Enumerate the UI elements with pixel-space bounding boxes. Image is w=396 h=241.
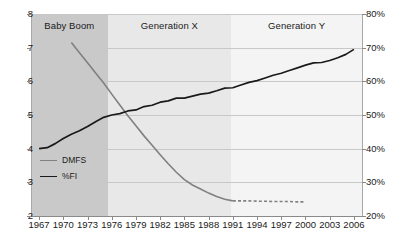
- x-axis: [31, 216, 363, 217]
- y-axis-right-tick-mark: [362, 216, 366, 217]
- y-axis-right-tick-mark: [362, 48, 366, 49]
- x-axis-tick-mark: [112, 216, 113, 220]
- y-axis-right-tick-mark: [362, 115, 366, 116]
- y-axis-right-tick-label: 40%: [366, 143, 396, 154]
- legend-swatch-pfi: [40, 176, 57, 177]
- chart-container: Baby BoomGeneration XGeneration Y 234567…: [0, 0, 396, 241]
- y-axis-left-tick-mark: [27, 115, 31, 116]
- legend-item-pfi: %FI: [40, 168, 86, 184]
- y-axis-left-tick-mark: [27, 48, 31, 49]
- x-axis-tick-mark: [233, 216, 234, 220]
- x-axis-tick-mark: [136, 216, 137, 220]
- series-line-pfi: [39, 49, 354, 148]
- x-axis-tick-mark: [354, 216, 355, 220]
- legend-swatch-dmfs: [40, 160, 57, 161]
- x-axis-tick-label: 2006: [337, 219, 371, 230]
- x-axis-tick-mark: [257, 216, 258, 220]
- x-axis-tick-mark: [209, 216, 210, 220]
- x-axis-tick-mark: [281, 216, 282, 220]
- y-axis-left-tick-mark: [27, 14, 31, 15]
- y-axis-right-tick-mark: [362, 149, 366, 150]
- x-axis-tick-mark: [39, 216, 40, 220]
- x-axis-tick-mark: [184, 216, 185, 220]
- y-axis-right-tick-label: 60%: [366, 75, 396, 86]
- legend-label-dmfs: DMFS: [62, 156, 86, 165]
- y-axis-right-tick-mark: [362, 81, 366, 82]
- y-axis-right-tick-label: 80%: [366, 8, 396, 19]
- legend-item-dmfs: DMFS: [40, 152, 86, 168]
- y-axis-right-tick-label: 50%: [366, 109, 396, 120]
- plot-area: Baby BoomGeneration XGeneration Y: [31, 14, 362, 216]
- y-axis-left-tick-mark: [27, 149, 31, 150]
- y-axis-left-tick-mark: [27, 216, 31, 217]
- legend-label-pfi: %FI: [62, 172, 77, 181]
- y-axis-right-tick-label: 30%: [366, 176, 396, 187]
- series-layer: [31, 14, 362, 216]
- y-axis-left-tick-mark: [27, 81, 31, 82]
- y-axis-left-tick-mark: [27, 182, 31, 183]
- x-axis-tick-mark: [330, 216, 331, 220]
- y-axis-right-tick-mark: [362, 14, 366, 15]
- x-axis-tick-mark: [160, 216, 161, 220]
- y-axis-right-tick-label: 70%: [366, 42, 396, 53]
- x-axis-tick-mark: [305, 216, 306, 220]
- x-axis-tick-mark: [63, 216, 64, 220]
- legend: DMFS %FI: [40, 152, 86, 184]
- y-axis-right-tick-mark: [362, 182, 366, 183]
- x-axis-tick-mark: [88, 216, 89, 220]
- series-line-dmfs-projected: [233, 201, 306, 202]
